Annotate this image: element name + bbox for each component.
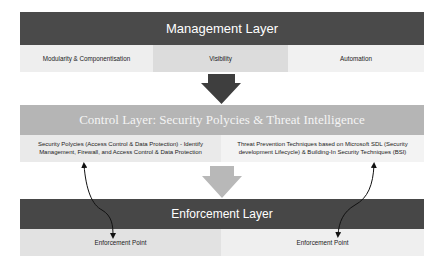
down-arrow-light-icon — [202, 166, 242, 198]
bidirectional-arrow-right-icon — [338, 165, 374, 235]
arrows-overlay — [0, 0, 443, 265]
down-arrow-dark-icon — [201, 74, 241, 104]
bidirectional-arrow-left-icon — [84, 165, 113, 236]
